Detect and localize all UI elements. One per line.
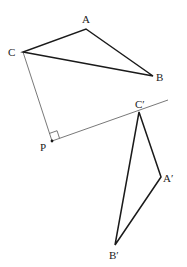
label-b-prime: B′ <box>109 250 119 261</box>
label-c-prime: C′ <box>135 99 145 110</box>
label-a: A <box>82 14 90 25</box>
triangle-a-prime-b-prime-c-prime <box>115 112 161 245</box>
rotation-diagram <box>0 0 187 267</box>
label-b: B <box>156 72 163 83</box>
label-c: C <box>8 47 15 58</box>
ray-p-cprime <box>52 100 168 141</box>
label-a-prime: A′ <box>163 173 173 184</box>
label-p: P <box>40 142 46 153</box>
point-p-dot <box>51 140 54 143</box>
segment-cp <box>23 52 52 141</box>
diagram-canvas: A B C P A′ B′ C′ <box>0 0 187 267</box>
triangle-abc <box>23 29 153 76</box>
